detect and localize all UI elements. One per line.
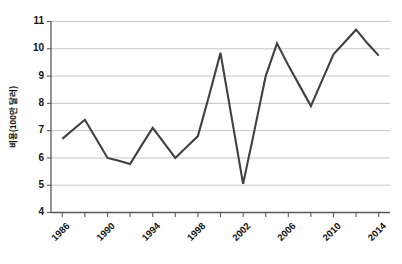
x-tick-label: 2014 bbox=[365, 220, 388, 243]
axes bbox=[51, 22, 390, 213]
x-tick-label: 1986 bbox=[49, 220, 72, 243]
y-tick-label: 10 bbox=[33, 42, 45, 53]
y-tick-label: 8 bbox=[38, 97, 44, 108]
x-tick-label: 2002 bbox=[230, 220, 253, 243]
x-tick-label: 1990 bbox=[94, 220, 117, 243]
y-axis-ticks: 4567891011 bbox=[33, 15, 51, 217]
y-tick-label: 5 bbox=[38, 179, 44, 190]
y-axis-title: 비용(100만 달러) bbox=[8, 86, 18, 148]
x-tick-label: 1994 bbox=[139, 220, 162, 243]
gridlines bbox=[51, 22, 390, 186]
data-series bbox=[62, 30, 378, 184]
chart-canvas: 4567891011 19861990199419982002200620102… bbox=[0, 0, 402, 264]
y-tick-label: 9 bbox=[38, 70, 44, 81]
x-axis-ticks: 19861990199419982002200620102014 bbox=[49, 213, 389, 243]
y-tick-label: 11 bbox=[33, 15, 44, 26]
line-chart: 4567891011 19861990199419982002200620102… bbox=[0, 0, 402, 264]
y-tick-label: 4 bbox=[38, 206, 44, 217]
x-tick-label: 2006 bbox=[275, 220, 298, 243]
y-tick-label: 7 bbox=[38, 124, 44, 135]
x-tick-label: 1998 bbox=[185, 220, 208, 243]
y-axis-title-label: 비용(100만 달러) bbox=[8, 86, 18, 148]
y-tick-label: 6 bbox=[38, 152, 44, 163]
x-tick-label: 2010 bbox=[320, 220, 343, 243]
data-line-비용 bbox=[62, 30, 378, 184]
